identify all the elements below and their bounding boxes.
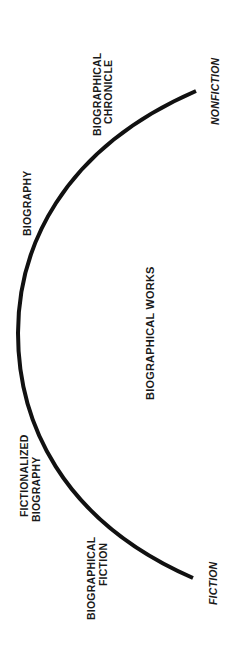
spectrum-arc xyxy=(18,91,196,578)
biography-label: BIOGRAPHY xyxy=(21,171,33,236)
svg-text:FICTION: FICTION xyxy=(97,543,109,586)
biographical-fiction-label: BIOGRAPHICAL FICTION xyxy=(85,536,109,620)
diagram-title: BIOGRAPHICAL WORKS xyxy=(144,266,156,400)
svg-text:FICTIONALIZED: FICTIONALIZED xyxy=(18,434,30,517)
biographical-chronicle-label: BIOGRAPHICAL CHRONICLE xyxy=(91,52,114,136)
fiction-label: FICTION xyxy=(207,561,219,605)
svg-text:BIOGRAPHY: BIOGRAPHY xyxy=(30,457,42,522)
svg-text:CHRONICLE: CHRONICLE xyxy=(102,60,114,124)
fictionalized-biography-label: FICTIONALIZED BIOGRAPHY xyxy=(18,434,42,522)
nonfiction-label: NONFICTION xyxy=(209,57,221,125)
svg-text:BIOGRAPHICAL: BIOGRAPHICAL xyxy=(85,536,97,620)
biographical-works-diagram: NONFICTION BIOGRAPHICAL CHRONICLE BIOGRA… xyxy=(0,0,234,658)
